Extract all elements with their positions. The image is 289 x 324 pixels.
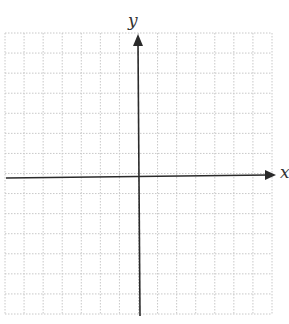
y-axis-label: y (128, 12, 138, 29)
y-axis (138, 44, 140, 316)
coordinate-plane (0, 0, 289, 324)
x-axis-label: x (280, 164, 289, 181)
x-axis-arrow-icon (265, 170, 276, 180)
y-axis-arrow-icon (133, 34, 143, 46)
x-axis (6, 175, 268, 178)
